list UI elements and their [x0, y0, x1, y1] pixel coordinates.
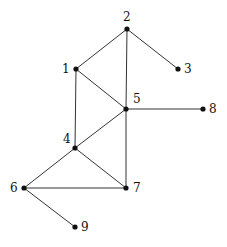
- node-9: [72, 224, 77, 229]
- graph-diagram: 123456789: [0, 0, 227, 247]
- edge-2-3: [127, 29, 178, 69]
- node-label-9: 9: [81, 220, 89, 234]
- node-label-2: 2: [123, 10, 131, 24]
- edge-4-6: [24, 148, 75, 188]
- node-label-3: 3: [184, 62, 192, 76]
- nodes-layer: [21, 26, 205, 229]
- node-label-4: 4: [63, 132, 71, 146]
- node-label-7: 7: [133, 181, 141, 195]
- edge-1-2: [76, 29, 127, 69]
- edge-2-5: [126, 29, 127, 109]
- edge-6-9: [24, 188, 75, 227]
- node-label-8: 8: [209, 102, 217, 116]
- node-label-1: 1: [62, 62, 70, 76]
- edge-1-4: [75, 69, 76, 148]
- edges-layer: [24, 29, 203, 227]
- node-label-5: 5: [133, 92, 141, 106]
- node-2: [124, 26, 129, 31]
- edge-1-5: [76, 69, 126, 109]
- node-1: [73, 66, 78, 71]
- node-7: [123, 185, 128, 190]
- node-4: [72, 145, 77, 150]
- node-8: [200, 106, 205, 111]
- node-label-6: 6: [10, 181, 18, 195]
- node-5: [123, 106, 128, 111]
- edge-4-7: [75, 148, 126, 188]
- edge-5-4: [75, 109, 126, 148]
- node-3: [175, 66, 180, 71]
- node-6: [21, 185, 26, 190]
